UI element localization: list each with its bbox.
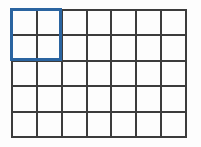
figure-canvas	[0, 0, 201, 147]
cell-grid[interactable]	[11, 9, 187, 138]
grid-cell-r3-c3[interactable]	[63, 62, 88, 87]
grid-cell-r4-c2[interactable]	[38, 87, 63, 112]
grid-cell-r1-c7[interactable]	[162, 11, 187, 36]
grid-cell-r1-c5[interactable]	[112, 11, 137, 36]
grid-cell-r2-c2[interactable]	[38, 36, 63, 61]
grid-cell-r3-c1[interactable]	[13, 62, 38, 87]
grid-cell-r5-c5[interactable]	[112, 113, 137, 138]
grid-cell-r2-c3[interactable]	[63, 36, 88, 61]
grid-cell-r1-c1[interactable]	[13, 11, 38, 36]
grid-cell-r2-c1[interactable]	[13, 36, 38, 61]
grid-cell-r4-c7[interactable]	[162, 87, 187, 112]
grid-cell-r5-c6[interactable]	[137, 113, 162, 138]
grid-cell-r1-c4[interactable]	[88, 11, 113, 36]
grid-cell-r4-c4[interactable]	[88, 87, 113, 112]
grid-cell-r3-c6[interactable]	[137, 62, 162, 87]
grid-cell-r2-c4[interactable]	[88, 36, 113, 61]
grid-cell-r3-c7[interactable]	[162, 62, 187, 87]
grid-cell-r2-c5[interactable]	[112, 36, 137, 61]
grid-cell-r4-c1[interactable]	[13, 87, 38, 112]
grid-cell-r4-c3[interactable]	[63, 87, 88, 112]
grid-cell-r2-c7[interactable]	[162, 36, 187, 61]
grid-cell-r4-c6[interactable]	[137, 87, 162, 112]
grid-cell-r5-c1[interactable]	[13, 113, 38, 138]
grid-cell-r3-c4[interactable]	[88, 62, 113, 87]
grid-cell-r1-c3[interactable]	[63, 11, 88, 36]
grid-cell-r5-c7[interactable]	[162, 113, 187, 138]
grid-cell-r1-c6[interactable]	[137, 11, 162, 36]
grid-cell-r5-c2[interactable]	[38, 113, 63, 138]
grid-cell-r3-c2[interactable]	[38, 62, 63, 87]
grid-cell-r5-c3[interactable]	[63, 113, 88, 138]
grid-cell-r4-c5[interactable]	[112, 87, 137, 112]
grid-cell-r2-c6[interactable]	[137, 36, 162, 61]
grid-cell-r3-c5[interactable]	[112, 62, 137, 87]
grid-cell-r5-c4[interactable]	[88, 113, 113, 138]
grid-cell-r1-c2[interactable]	[38, 11, 63, 36]
